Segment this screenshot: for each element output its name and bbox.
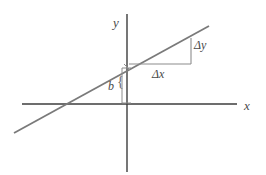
delta-y-label: Δy <box>194 39 206 51</box>
diagram-canvas <box>0 0 266 175</box>
brace-icon: { <box>117 75 124 89</box>
x-axis-label: x <box>244 99 250 112</box>
intercept-label: b <box>108 80 114 92</box>
slope-intercept-diagram: y x Δy Δx b { <box>0 0 266 175</box>
delta-x-label: Δx <box>152 68 164 80</box>
y-axis-label: y <box>113 16 119 29</box>
